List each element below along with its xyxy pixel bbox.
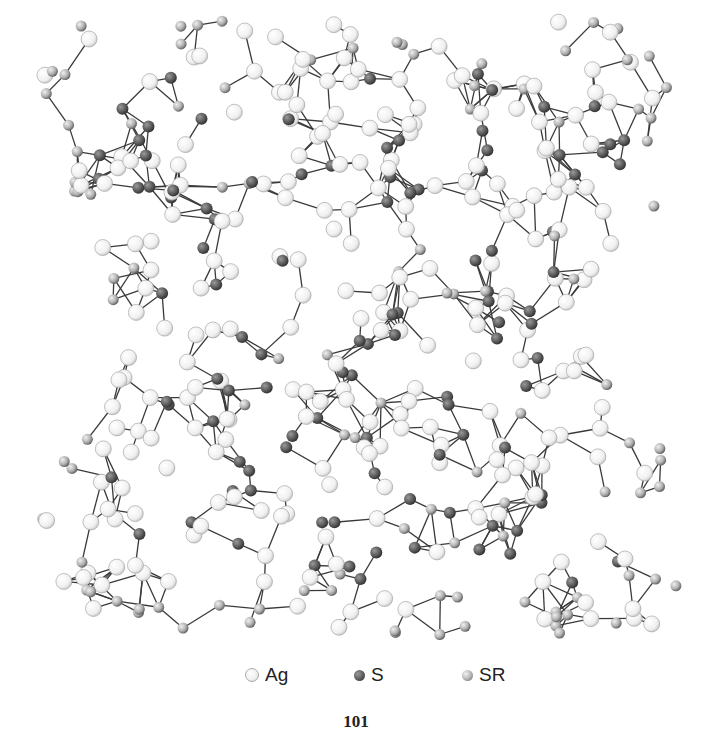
sr-atom [41,88,52,99]
s-atom [548,266,560,278]
sr-atom [415,244,426,255]
atoms-layer [37,14,681,640]
sr-atom [214,600,225,611]
bond [440,596,441,635]
ag-atom [312,393,328,409]
ag-atom [273,508,289,524]
sr-atom [611,618,622,629]
ag-atom [214,213,230,229]
legend-item-s: S [354,660,384,690]
legend-label-sr: SR [479,664,505,686]
ag-atom [513,352,529,368]
ag-atom [497,295,513,311]
ag-atom [465,353,481,369]
ag-atom [392,269,408,285]
s-atom [364,73,376,85]
ag-atom [578,179,594,195]
ag-atom [138,280,154,296]
s-atom [245,484,257,496]
sr-atom [426,504,437,515]
s-atom [156,287,168,299]
ag-atom [290,598,306,614]
sr-atom-icon [462,670,473,681]
ag-atom [39,512,55,528]
ag-atom [583,261,599,277]
s-atom [389,329,401,341]
ag-atom [590,449,606,465]
ag-atom [362,120,378,136]
ag-atom [291,148,307,164]
sr-atom [408,49,419,60]
bond [455,526,493,543]
sr-atom [554,627,565,638]
sr-atom [499,497,510,508]
s-atom [404,493,416,505]
ag-atom [377,479,393,495]
sr-atom [245,617,256,628]
ag-atom [188,327,204,343]
sr-atom [85,189,96,200]
ag-atom [558,294,574,310]
ag-atom [193,280,209,296]
sr-atom [562,609,573,620]
s-atom [470,254,482,266]
s-atom [381,142,393,154]
s-atom [443,399,455,411]
sr-atom [434,629,445,640]
sr-atom [460,621,471,632]
s-atom [409,542,421,554]
ag-atom [403,291,419,307]
legend-item-ag: Ag [245,660,288,690]
sr-atom [108,294,119,305]
sr-atom [670,580,681,591]
s-atom [511,525,523,537]
sr-atom [239,399,250,410]
s-atom [133,528,145,540]
s-atom [296,168,308,180]
ag-atom [192,48,208,64]
ag-atom [644,90,660,106]
ag-atom [373,322,389,338]
ag-atom [427,178,443,194]
ag-atom [637,465,653,481]
s-atom [133,134,145,146]
s-atom [236,331,248,343]
ag-atom [422,260,438,276]
ag-atom [468,300,484,316]
sr-atom [192,20,203,31]
ag-atom [142,390,158,406]
ag-atom [526,188,542,204]
s-atom [94,149,106,161]
ag-atom [71,163,87,179]
ag-atom [465,189,481,205]
ag-atom [127,557,143,573]
bond [352,375,381,403]
ag-atom [210,495,226,511]
ag-atom [377,107,393,123]
s-atom [520,380,532,392]
ag-atom [550,14,566,30]
sr-atom [217,16,228,27]
ag-atom [246,63,262,79]
ag-atom-icon [245,668,259,682]
sr-atom [560,45,571,56]
ag-atom [568,107,584,123]
ag-atom [401,393,417,409]
bond [46,94,68,126]
sr-atom [519,596,530,607]
ag-atom [392,71,408,87]
ag-atom [369,511,385,527]
ag-atom [343,235,359,251]
ag-atom [595,203,611,219]
ag-atom [100,501,116,517]
s-atom [566,577,578,589]
ag-atom [295,51,311,67]
sr-atom [622,54,633,65]
nanocluster-structure-figure [0,0,712,640]
ag-atom [431,38,447,54]
ag-atom [339,391,355,407]
ag-atom [157,320,173,336]
ag-atom [527,486,543,502]
s-atom [434,449,446,461]
ag-atom [528,231,544,247]
